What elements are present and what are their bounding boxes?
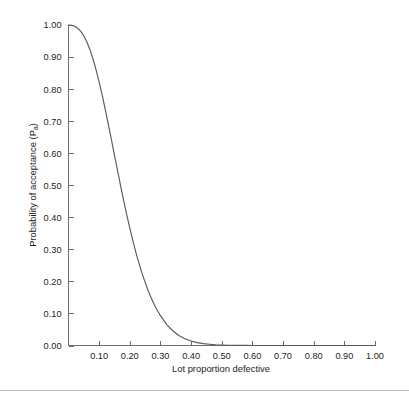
y-tick-label: 0.40 [44, 213, 62, 223]
y-tick-label: 0.00 [44, 341, 62, 351]
y-tick-label: 0.70 [44, 117, 62, 127]
y-axis-title-main: Probability of acceptance (P [27, 130, 38, 247]
y-tick-label: 0.90 [44, 52, 62, 62]
y-tick-label: 0.80 [44, 85, 62, 95]
oc-curve-chart: 0.000.100.200.300.400.500.600.700.800.90… [0, 0, 409, 401]
x-tick-label: 0.30 [152, 351, 170, 361]
y-tick-label: 0.50 [44, 181, 62, 191]
x-tick-label: 0.80 [305, 351, 323, 361]
x-tick-label: 0.70 [274, 351, 292, 361]
x-tick-label: 0.40 [182, 351, 200, 361]
x-axis-title: Lot proportion defective [172, 363, 270, 374]
y-axis-title-close: ) [27, 123, 38, 126]
x-tick-label: 0.10 [90, 351, 108, 361]
x-tick-label: 1.00 [366, 351, 384, 361]
x-tick-label: 0.50 [213, 351, 231, 361]
y-tick-label: 1.00 [44, 20, 62, 30]
x-tick-label: 0.60 [243, 351, 261, 361]
y-axis-title: Probability of acceptance (Pa) [27, 123, 39, 247]
y-tick-label: 0.60 [44, 149, 62, 159]
x-tick-label: 0.90 [335, 351, 353, 361]
y-tick-label: 0.10 [44, 309, 62, 319]
figure-container: 0.000.100.200.300.400.500.600.700.800.90… [0, 0, 409, 401]
x-tick-label: 0.20 [121, 351, 139, 361]
y-tick-label: 0.20 [44, 277, 62, 287]
y-tick-label: 0.30 [44, 245, 62, 255]
